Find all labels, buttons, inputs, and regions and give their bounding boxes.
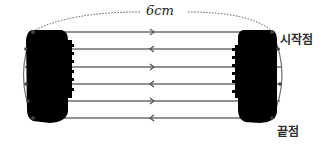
distance-arc (33, 12, 140, 31)
left-coil (26, 30, 74, 123)
arrow-icons (150, 29, 154, 121)
right-coil (232, 30, 277, 123)
distance-arc (188, 12, 272, 31)
end-point-label: 끝점 (277, 122, 299, 139)
start-point-label: 시작점 (280, 30, 313, 47)
distance-label: 6cm (146, 3, 174, 18)
